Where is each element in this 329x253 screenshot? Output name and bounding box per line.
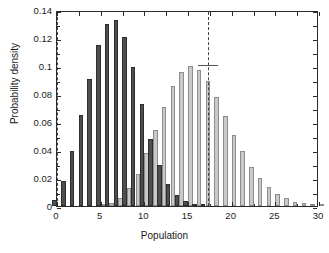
figure-histogram: 00.020.040.060.080.10.120.14051015202530… [0,0,329,253]
x-tick [166,204,167,207]
y-tick [57,180,61,181]
x-tick [254,204,255,207]
x-tick-top [210,12,211,16]
x-tick-top [254,12,255,16]
annotations-layer [57,12,317,206]
y-tick-right [313,54,317,55]
y-tick-right [313,152,317,153]
y-tick [57,26,60,27]
y-tick [57,96,61,97]
y-tick-right [313,138,317,139]
y-tick [57,152,61,153]
y-tick [57,54,60,55]
y-tick [57,138,60,139]
x-tick-top [297,12,298,16]
x-tick [57,202,58,206]
x-tick [232,202,233,206]
dashed-line-left [57,12,58,206]
x-tick-top [101,12,102,16]
y-tick-right [313,194,317,195]
x-tick [210,204,211,207]
x-tick-top [275,12,276,16]
x-tick-label: 25 [259,211,289,221]
y-tick [57,124,61,125]
x-tick-top [79,12,80,16]
y-tick-right [313,68,317,69]
y-tick-right [313,180,317,181]
x-tick-top [188,12,189,16]
x-tick-label: 0 [41,211,71,221]
y-tick-right [313,208,317,209]
y-tick [57,166,60,167]
x-axis-title: Population [0,230,329,241]
x-tick-label: 5 [85,211,115,221]
x-tick-top [166,12,167,16]
x-tick [188,202,189,206]
y-tick [57,40,61,41]
y-tick-right [313,124,317,125]
mean-marker [198,65,217,66]
plot-area [56,11,318,207]
x-tick-top [57,12,58,16]
x-tick [319,202,320,206]
x-tick [144,202,145,206]
y-tick [57,208,61,209]
x-tick [275,202,276,206]
y-tick [57,68,61,69]
y-tick-label: 0.02 [6,174,52,184]
y-tick-right [313,82,317,83]
y-tick [57,110,60,111]
y-tick [57,194,60,195]
x-tick-top [123,12,124,16]
x-tick-top [144,12,145,16]
y-tick-right [313,26,317,27]
x-tick [101,202,102,206]
x-tick-top [319,12,320,16]
y-tick-right [313,12,317,13]
x-tick [297,204,298,207]
y-tick-right [313,166,317,167]
y-axis-title: Probability density [9,4,20,164]
dashed-line-right [208,12,209,206]
x-tick-top [232,12,233,16]
x-tick [79,204,80,207]
y-tick [57,82,60,83]
x-tick-label: 20 [216,211,246,221]
x-tick-label: 15 [172,211,202,221]
y-tick-right [313,110,317,111]
x-tick [123,204,124,207]
y-tick-right [313,96,317,97]
y-tick-right [313,40,317,41]
x-tick-label: 10 [128,211,158,221]
x-tick-label: 30 [303,211,329,221]
